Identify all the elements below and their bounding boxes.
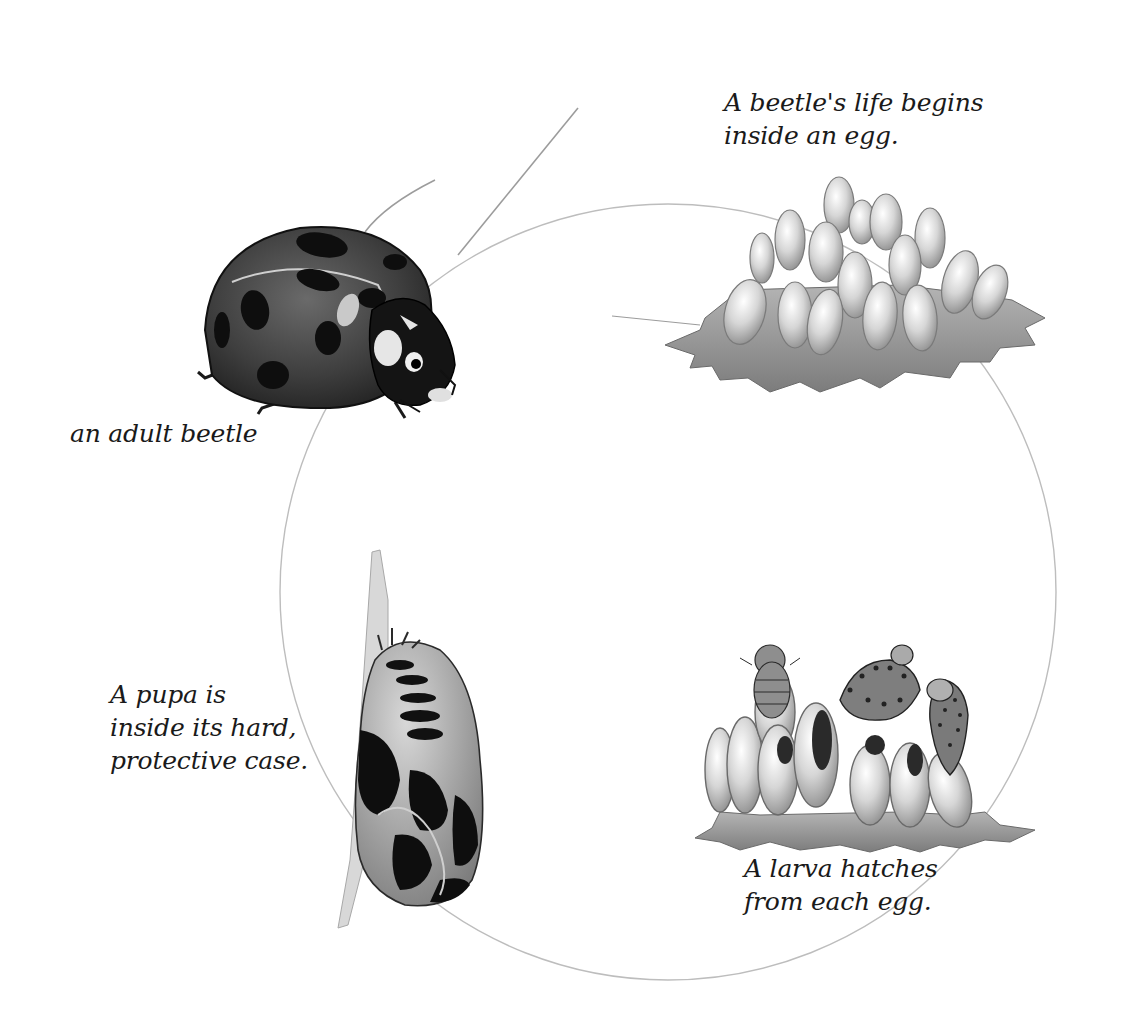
pupa-illustration bbox=[338, 550, 483, 928]
larva-illustration bbox=[695, 645, 1035, 852]
caption-larva: A larva hatches from each egg. bbox=[744, 852, 938, 918]
caption-egg: A beetle's life begins inside an egg. bbox=[724, 86, 983, 152]
adult-beetle-illustration bbox=[198, 227, 455, 418]
motion-lines bbox=[365, 108, 578, 255]
caption-adult-line-1: an adult beetle bbox=[70, 417, 257, 450]
life-cycle-illustration bbox=[0, 0, 1148, 1030]
egg-cluster-illustration bbox=[665, 177, 1045, 392]
caption-adult: an adult beetle bbox=[70, 417, 257, 450]
life-cycle-diagram: A beetle's life begins inside an egg. an… bbox=[0, 0, 1148, 1030]
caption-pupa-line-1: A pupa is bbox=[110, 678, 308, 711]
caption-pupa-line-3: protective case. bbox=[110, 744, 308, 777]
caption-pupa: A pupa is inside its hard, protective ca… bbox=[110, 678, 308, 777]
caption-larva-line-2: from each egg. bbox=[744, 885, 938, 918]
caption-pupa-line-2: inside its hard, bbox=[110, 711, 308, 744]
caption-larva-line-1: A larva hatches bbox=[744, 852, 938, 885]
egg-pointer-line bbox=[612, 316, 700, 325]
caption-egg-line-1: A beetle's life begins bbox=[724, 86, 983, 119]
caption-egg-line-2: inside an egg. bbox=[724, 119, 983, 152]
